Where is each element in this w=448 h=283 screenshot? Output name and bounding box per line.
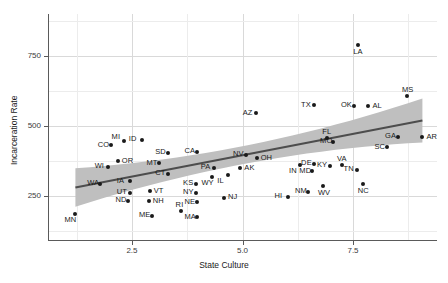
data-point: [195, 215, 199, 219]
data-point-label: AR: [426, 133, 437, 141]
data-point-label: OR: [122, 157, 133, 165]
data-point-label: NM: [295, 187, 307, 195]
x-axis-tick-label: 2.5: [112, 247, 152, 255]
data-point-label: GA: [385, 132, 396, 140]
data-point-label: LA: [353, 48, 362, 56]
data-point: [126, 199, 130, 203]
scatter-plot-figure: MNWAWICOMIORIDIAUTNDMTSDCTVTNHMECAKSNYNE…: [0, 0, 448, 283]
data-point-label: CA: [184, 147, 195, 155]
y-axis-tick-mark: [44, 56, 48, 57]
data-point-label: RI: [176, 201, 184, 209]
data-point: [222, 196, 226, 200]
data-point-label: SC: [374, 143, 385, 151]
data-point: [194, 182, 198, 186]
data-point-label: MA: [184, 213, 195, 221]
y-axis-tick-label: 250: [11, 192, 41, 200]
data-point: [244, 153, 248, 157]
x-axis-tick-label: 5.0: [223, 247, 263, 255]
data-point-label: AZ: [243, 109, 253, 117]
data-point: [116, 159, 120, 163]
data-point-label: TN: [344, 165, 354, 173]
data-point-label: VT: [154, 187, 164, 195]
data-point-label: KS: [183, 179, 193, 187]
x-axis-tick-mark: [243, 241, 244, 245]
data-point-label: MI: [112, 133, 121, 141]
data-point: [212, 166, 216, 170]
data-point-label: IA: [117, 177, 124, 185]
data-point: [238, 166, 242, 170]
y-axis-tick-mark: [44, 196, 48, 197]
data-point: [254, 111, 258, 115]
data-point-label: MS: [402, 86, 413, 94]
data-point: [122, 139, 126, 143]
data-point-label: WI: [95, 162, 104, 170]
data-point-label: PA: [201, 163, 211, 171]
data-point-label: NJ: [228, 193, 237, 201]
data-point-label: MT: [146, 159, 157, 167]
x-axis-tick-mark: [353, 241, 354, 245]
data-point: [150, 214, 154, 218]
data-point: [109, 143, 113, 147]
regression-fit-with-confidence-band: [48, 14, 437, 241]
data-point: [312, 103, 316, 107]
data-point: [420, 135, 424, 139]
data-point: [328, 164, 332, 168]
data-point: [312, 162, 316, 166]
x-axis-title: State Culture: [0, 260, 448, 270]
data-point: [255, 156, 259, 160]
data-point-label: ID: [129, 135, 137, 143]
data-point-label: VA: [337, 155, 347, 163]
data-point-label: HI: [275, 192, 283, 200]
data-point-label: MN: [64, 216, 76, 224]
data-point-label: AL: [372, 102, 381, 110]
data-point: [194, 191, 198, 195]
data-point: [286, 195, 290, 199]
data-point-label: DE: [301, 159, 312, 167]
data-point: [128, 191, 132, 195]
data-point: [140, 138, 144, 142]
y-axis-tick-mark: [44, 126, 48, 127]
data-point: [195, 200, 199, 204]
data-point: [166, 151, 170, 155]
data-point-label: WY: [201, 179, 213, 187]
data-point: [366, 104, 370, 108]
data-point: [166, 172, 170, 176]
y-axis-title: Incarceration Rate: [9, 96, 19, 165]
data-point-label: NH: [153, 197, 164, 205]
data-point-label: MD: [299, 167, 311, 175]
data-point-label: NY: [183, 188, 194, 196]
data-point: [385, 145, 389, 149]
data-point: [106, 165, 110, 169]
data-point-label: OH: [261, 154, 272, 162]
data-point-label: WV: [318, 189, 330, 197]
regression-line: [75, 120, 422, 187]
data-point-label: NC: [358, 187, 369, 195]
data-point: [157, 161, 161, 165]
data-point: [148, 189, 152, 193]
plot-panel: MNWAWICOMIORIDIAUTNDMTSDCTVTNHMECAKSNYNE…: [48, 14, 437, 241]
data-point-label: WA: [87, 179, 99, 187]
data-point-label: NV: [233, 150, 244, 158]
data-point-label: OK: [341, 101, 352, 109]
data-point-label: KY: [317, 161, 327, 169]
data-point-label: ME: [139, 211, 150, 219]
data-point: [355, 168, 359, 172]
data-point: [405, 94, 409, 98]
y-axis-tick-label: 750: [11, 52, 41, 60]
data-point: [179, 209, 183, 213]
data-point-label: ND: [115, 196, 126, 204]
x-axis-tick-label: 7.5: [333, 247, 373, 255]
data-point: [325, 136, 329, 140]
data-point-label: IN: [289, 167, 297, 175]
data-point-label: SD: [155, 148, 166, 156]
data-point-label: FL: [322, 128, 331, 136]
data-point: [396, 135, 400, 139]
data-point: [147, 199, 151, 203]
data-point: [352, 104, 356, 108]
data-point-label: CT: [155, 169, 165, 177]
data-point-label: IL: [217, 177, 223, 185]
data-point-label: CO: [98, 141, 109, 149]
x-axis-tick-mark: [132, 241, 133, 245]
data-point: [226, 173, 230, 177]
data-point-label: NE: [184, 198, 195, 206]
